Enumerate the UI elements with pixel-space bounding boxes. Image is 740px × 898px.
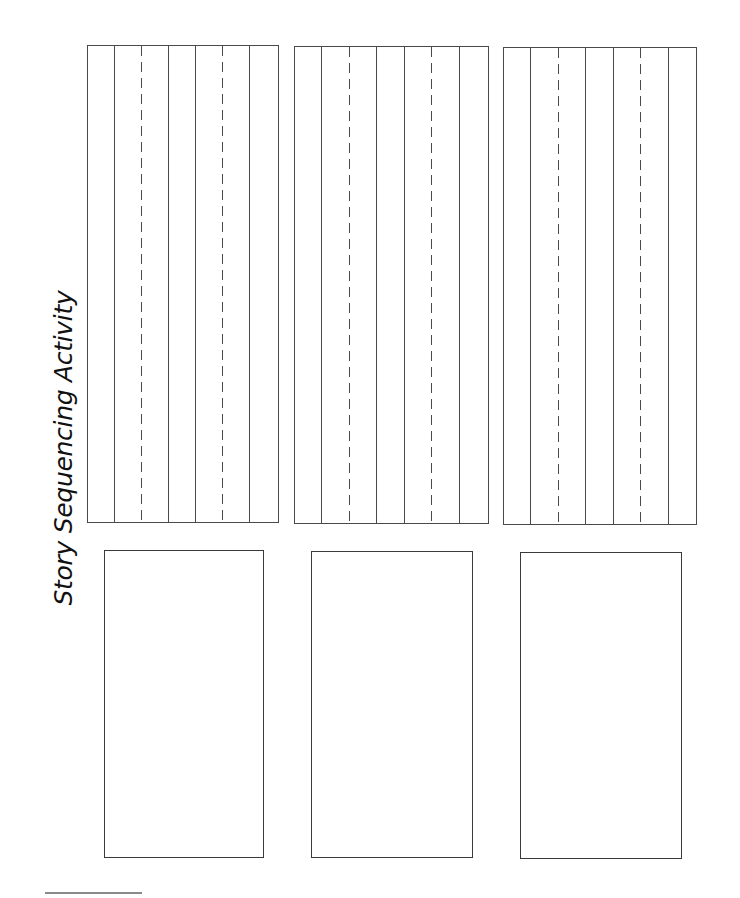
solid-writing-line	[376, 47, 377, 523]
solid-writing-line	[585, 48, 586, 524]
solid-writing-line	[195, 46, 196, 522]
solid-writing-line	[114, 46, 115, 522]
dashed-midline	[558, 48, 560, 524]
solid-writing-line	[249, 46, 250, 522]
solid-writing-line	[668, 48, 669, 524]
writing-area-3[interactable]	[503, 47, 697, 525]
solid-writing-line	[530, 48, 531, 524]
solid-writing-line	[613, 48, 614, 524]
solid-writing-line	[168, 46, 169, 522]
dashed-midline	[349, 47, 351, 523]
writing-area-1[interactable]	[87, 45, 279, 523]
picture-area-3[interactable]	[520, 552, 682, 859]
solid-writing-line	[321, 47, 322, 523]
footnote-divider	[45, 892, 142, 894]
picture-area-2[interactable]	[311, 551, 473, 858]
writing-area-2[interactable]	[294, 46, 489, 524]
dashed-midline	[141, 46, 143, 522]
picture-area-1[interactable]	[104, 550, 264, 858]
dashed-midline	[431, 47, 433, 523]
dashed-midline	[222, 46, 224, 522]
page-title: Story Sequencing Activity	[49, 291, 78, 606]
solid-writing-line	[404, 47, 405, 523]
dashed-midline	[640, 48, 642, 524]
solid-writing-line	[459, 47, 460, 523]
